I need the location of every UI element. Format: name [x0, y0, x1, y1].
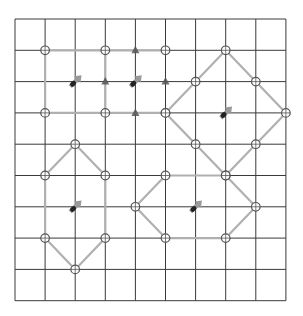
circle-node-icon [221, 46, 230, 55]
circle-node-icon [131, 203, 140, 212]
shape-edge [226, 176, 256, 207]
circle-node-icon [161, 46, 170, 55]
circle-node-icon [41, 109, 50, 118]
circle-node-icon [161, 109, 170, 118]
arrow-up-right-icon [67, 72, 85, 90]
circle-node-icon [101, 171, 110, 180]
arrow-body [218, 103, 236, 121]
circle-node-icon [41, 46, 50, 55]
shape-edge [45, 144, 75, 175]
circle-node-icon [282, 109, 291, 118]
circle-node-icon [221, 234, 230, 243]
shape-edge [75, 238, 105, 269]
arrow-up-right-icon [127, 72, 145, 90]
circle-node-icon [252, 203, 261, 212]
shape-edge [75, 144, 105, 175]
lattice-diagram [0, 0, 303, 316]
shape-edge [45, 238, 75, 269]
arrow-body [127, 72, 145, 90]
circle-node-icon [161, 234, 170, 243]
circle-node-icon [71, 140, 80, 149]
circle-node-icon [252, 140, 261, 149]
circle-node-icon [101, 46, 110, 55]
arrow-up-right-icon [218, 103, 236, 121]
arrow-body [67, 72, 85, 90]
circle-node-icon [101, 234, 110, 243]
circle-node-icon [41, 234, 50, 243]
circle-node-icon [252, 77, 261, 86]
circle-node-icon [101, 109, 110, 118]
shape-edge [135, 207, 165, 238]
shape-edge [135, 176, 165, 207]
arrow-up-right-icon [67, 197, 85, 215]
grid-lines [15, 19, 286, 301]
circle-node-icon [41, 171, 50, 180]
triangle-node-icon [101, 77, 109, 85]
shape-edge [226, 207, 256, 238]
circle-node-icon [191, 77, 200, 86]
arrow-body [187, 197, 205, 215]
circle-node-icon [191, 140, 200, 149]
circle-node-icon [221, 171, 230, 180]
arrow-body [67, 197, 85, 215]
arrow-up-right-icon [187, 197, 205, 215]
triangle-node-icon [162, 77, 170, 85]
circle-node-icon [161, 171, 170, 180]
circle-node-icon [71, 265, 80, 274]
